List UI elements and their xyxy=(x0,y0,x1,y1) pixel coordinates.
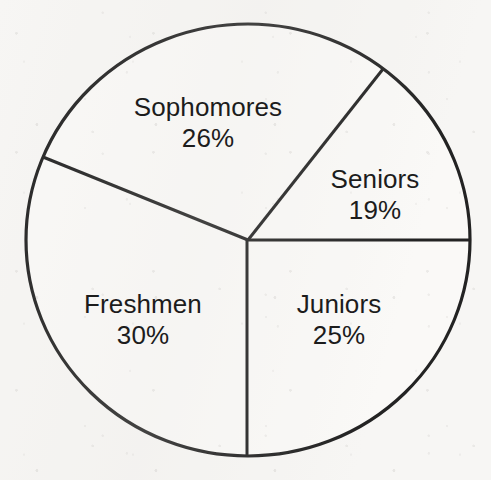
slice-value-sophomores: 26% xyxy=(134,123,282,154)
slice-name-sophomores: Sophomores xyxy=(134,92,282,123)
pie-chart-figure: Sophomores 26% Seniors 19% Juniors 25% F… xyxy=(0,0,491,480)
slice-value-seniors: 19% xyxy=(331,195,420,226)
slice-value-freshmen: 30% xyxy=(84,320,202,351)
slice-name-seniors: Seniors xyxy=(331,164,420,195)
pie-slice-label-freshmen: Freshmen 30% xyxy=(84,289,202,350)
slice-name-freshmen: Freshmen xyxy=(84,289,202,320)
pie-slice-label-sophomores: Sophomores 26% xyxy=(134,92,282,153)
slice-value-juniors: 25% xyxy=(297,320,382,351)
pie-slice-label-juniors: Juniors 25% xyxy=(297,289,382,350)
pie-chart-graphic xyxy=(0,0,491,480)
slice-name-juniors: Juniors xyxy=(297,289,382,320)
pie-slice-label-seniors: Seniors 19% xyxy=(331,164,420,225)
